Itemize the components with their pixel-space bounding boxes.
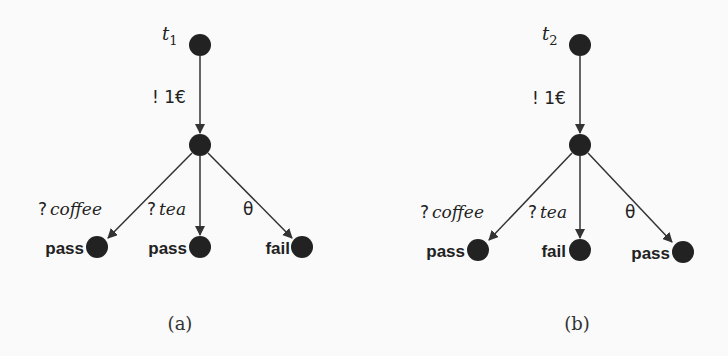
- leaf-node-theta: [291, 236, 313, 258]
- verdict-coffee: pass: [45, 239, 84, 258]
- edge-coffee: [489, 153, 572, 240]
- test-name-t1: t1: [162, 23, 178, 48]
- root-node: [569, 34, 591, 56]
- branch-node: [189, 134, 211, 156]
- leaf-node-tea: [189, 236, 211, 258]
- edge-theta: [208, 153, 292, 238]
- test-name-t2: t2: [542, 23, 558, 48]
- edge-label-coffee: ?coffee: [420, 202, 484, 222]
- leaf-node-coffee: [86, 236, 108, 258]
- caption-a: (a): [168, 313, 193, 334]
- verdict-coffee: pass: [426, 242, 465, 261]
- verdict-tea: pass: [148, 239, 187, 258]
- verdict-tea: fail: [541, 242, 566, 261]
- edge-label-tea: ?tea: [147, 199, 186, 219]
- leaf-node-tea: [569, 239, 591, 261]
- edge-coffee: [108, 153, 192, 238]
- edge-label-theta: θ: [625, 202, 635, 222]
- caption-b: (b): [564, 313, 590, 334]
- test-case-a: t1 ! 1€ ?coffee ?tea θ pass pass fail (a…: [38, 23, 313, 334]
- edge-label-stimulus: ! 1€: [152, 87, 186, 107]
- leaf-node-coffee: [467, 239, 489, 261]
- edge-label-coffee: ?coffee: [38, 199, 102, 219]
- edge-label-stimulus: ! 1€: [532, 88, 566, 108]
- verdict-theta: pass: [631, 244, 670, 263]
- edge-label-tea: ?tea: [528, 202, 567, 222]
- branch-node: [569, 134, 591, 156]
- verdict-theta: fail: [265, 239, 290, 258]
- leaf-node-theta: [672, 241, 694, 263]
- root-node: [189, 34, 211, 56]
- test-case-diagrams: t1 ! 1€ ?coffee ?tea θ pass pass fail (a…: [0, 0, 728, 356]
- test-case-b: t2 ! 1€ ?coffee ?tea θ pass fail pass (b…: [420, 23, 694, 334]
- edge-label-theta: θ: [243, 199, 253, 219]
- edge-theta: [588, 153, 672, 242]
